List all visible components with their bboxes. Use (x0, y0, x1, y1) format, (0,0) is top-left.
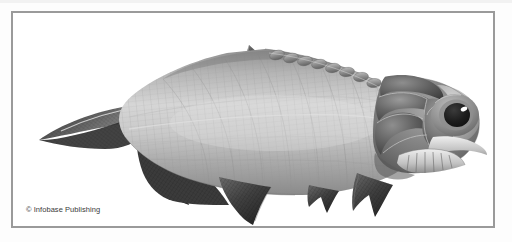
pectoral-fin (352, 173, 393, 217)
illustration-area: © Infobase Publishing (13, 13, 493, 226)
eye-pupil (444, 103, 470, 127)
figure-frame: © Infobase Publishing (11, 11, 495, 228)
eye (431, 94, 479, 136)
page-top-edge (0, 0, 512, 3)
figure-page: © Infobase Publishing (0, 0, 512, 242)
fish-illustration (13, 13, 493, 226)
copyright-credit: © Infobase Publishing (26, 205, 100, 214)
